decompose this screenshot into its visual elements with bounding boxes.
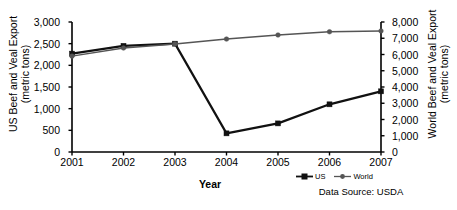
data-point-marker [224,37,229,42]
source-note: Data Source: USDA [276,186,446,197]
series-us [70,41,384,136]
data-point-marker [70,54,75,59]
chart-legend: USWorld [296,172,373,181]
data-point-marker [327,29,332,34]
legend-label: World [353,173,372,181]
legend-item-world: World [334,172,372,181]
data-point-marker [379,89,384,94]
data-point-marker [379,29,384,34]
chart-container: US Beef and Veal Export (metric tons) Wo… [0,0,457,210]
legend-label: US [315,173,325,181]
data-point-marker [224,131,229,136]
data-point-marker [173,42,178,47]
data-point-marker [276,121,281,126]
plot-area [0,0,457,210]
legend-marker [302,174,308,180]
legend-square-marker-icon [296,172,313,181]
legend-item-us: US [296,172,325,181]
legend-circle-marker-icon [334,172,351,181]
series-line-world [72,31,381,56]
series-world [70,29,384,59]
series-line-us [72,44,381,134]
data-point-marker [276,33,281,38]
legend-marker [341,174,346,179]
data-point-marker [327,102,332,107]
data-point-marker [121,46,126,51]
